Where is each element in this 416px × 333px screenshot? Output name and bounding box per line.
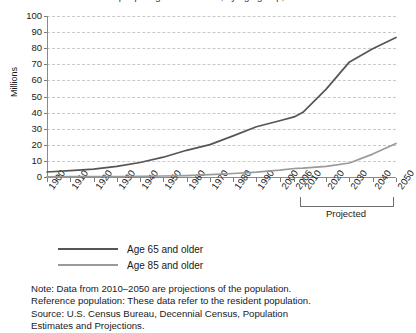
chart-plot-area: Millions 0102030405060708090100 19001910… <box>0 0 406 230</box>
projected-bracket <box>300 197 394 207</box>
legend-item-age-65-and-older: Age 65 and older <box>58 241 203 257</box>
note-line: Note: Data from 2010–2050 are projection… <box>31 283 401 295</box>
legend-swatch-line <box>58 248 118 250</box>
legend-item-age-85-and-older: Age 85 and older <box>58 257 203 273</box>
series-lines <box>0 0 406 230</box>
series-line-age-85-and-older <box>47 143 396 176</box>
note-line: Source: U.S. Census Bureau, Decennial Ce… <box>31 308 401 320</box>
chart-legend: Age 65 and older Age 85 and older <box>58 241 203 273</box>
projected-label: Projected <box>300 208 392 219</box>
series-line-age-65-and-older <box>47 37 396 172</box>
legend-swatch-line <box>58 264 118 266</box>
chart-notes: Note: Data from 2010–2050 are projection… <box>31 283 401 333</box>
note-line: Estimates and Projections. <box>31 320 401 332</box>
legend-item-label: Age 85 and older <box>127 260 203 271</box>
note-line: Reference population: These data refer t… <box>31 295 401 307</box>
legend-item-label: Age 65 and older <box>127 244 203 255</box>
